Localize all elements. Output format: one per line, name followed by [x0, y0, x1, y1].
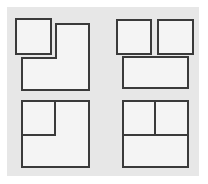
panel-bottom-left [22, 101, 89, 167]
panel-bottom-right [123, 101, 188, 167]
diagram-canvas [0, 0, 208, 184]
top-right-shape-3 [123, 57, 188, 88]
top-right-shape-2 [158, 20, 193, 54]
top-right-shape-1 [117, 20, 151, 54]
panel-top-right [117, 20, 193, 88]
panel-top-left [16, 19, 89, 90]
top-left-shape-1 [16, 19, 51, 54]
